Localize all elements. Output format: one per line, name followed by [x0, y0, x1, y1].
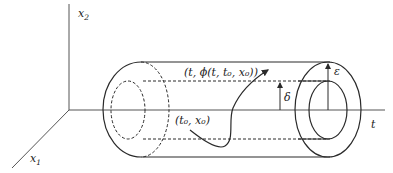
trajectory-curve: [190, 70, 268, 147]
epsilon-label: ε: [334, 65, 340, 78]
initial-point-label: (t₀, x₀): [175, 114, 210, 127]
delta-label: δ: [284, 91, 291, 104]
stability-tube-diagram: x2 x1 t ε δ: [0, 0, 393, 173]
axes: [12, 4, 385, 168]
x2-axis-label: x2: [78, 7, 89, 22]
t-axis-label: t: [371, 118, 376, 131]
x1-axis-label: x1: [30, 152, 41, 167]
trajectory-end-label: (t, ϕ(t, t₀, x₀)): [184, 66, 258, 79]
